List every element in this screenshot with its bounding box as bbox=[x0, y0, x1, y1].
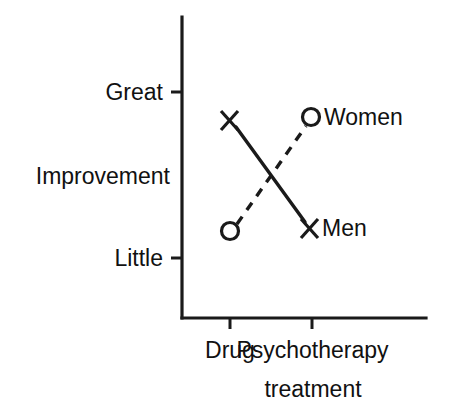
series-label-women: Women bbox=[324, 106, 403, 129]
marker-men-psychotherapy bbox=[301, 219, 318, 238]
marker-women-psychotherapy bbox=[303, 109, 320, 126]
y-tick-label-little: Little bbox=[0, 247, 163, 270]
y-axis-title: Improvement bbox=[0, 165, 170, 188]
x-axis-title: treatment bbox=[233, 378, 393, 401]
chart-figure: Great Little Improvement Drug Psychother… bbox=[0, 0, 452, 415]
x-tick-label-psychotherapy: Psychotherapy bbox=[230, 339, 395, 362]
y-tick-label-great: Great bbox=[0, 81, 163, 104]
series-label-men: Men bbox=[322, 217, 367, 240]
marker-men-drug bbox=[221, 111, 238, 130]
marker-women-drug bbox=[222, 223, 239, 240]
